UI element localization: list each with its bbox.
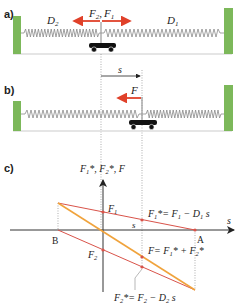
- line-f2-star: [58, 230, 195, 290]
- point-a-label: A: [197, 235, 204, 245]
- f2-star-leader: [135, 269, 142, 290]
- restoring-force-label: F: [130, 84, 138, 96]
- right-wall: [224, 8, 233, 54]
- f1-label: F1: [107, 203, 117, 215]
- eq-f1-star: F1*= F1 − D1 s: [147, 208, 210, 220]
- point-f2: [101, 248, 104, 251]
- point-f: [140, 255, 143, 258]
- s-tick-label: s: [132, 220, 136, 230]
- point-f1: [101, 210, 104, 213]
- spring-cart-diagram: a) F2, F1 D2 D1 s b): [0, 0, 240, 305]
- panel-b-label: b): [4, 84, 15, 96]
- displacement-label: s: [118, 64, 122, 75]
- panel-b: b) F: [4, 84, 233, 131]
- cart-a: [89, 43, 116, 52]
- point-f2-star: [140, 265, 143, 268]
- x-axis-label: s: [227, 215, 231, 226]
- spring-d1-label: D1: [166, 14, 178, 28]
- spring-d1: [101, 29, 224, 37]
- eq-f-sum: F= F1* + F2*: [147, 245, 204, 257]
- force-f2-label: F2,: [88, 7, 102, 21]
- right-wall: [224, 85, 233, 131]
- spring-d2: [21, 29, 101, 37]
- f2-label: F2: [87, 249, 98, 261]
- y-axis-label: F1*, F2*, F: [79, 163, 126, 175]
- spring-d1-compressed: [142, 110, 224, 118]
- panel-c-graph: c) F1*, F2*, F s F1 F2 s B A F1*= F1 − D…: [4, 162, 234, 304]
- panel-a-label: a): [4, 8, 14, 20]
- point-f1-star: [140, 218, 143, 221]
- spring-d2-stretched: [21, 110, 142, 118]
- point-a: [193, 228, 196, 231]
- eq-f2-star: F2*= F2 − D2 s: [113, 292, 176, 304]
- left-wall: [13, 16, 21, 54]
- panel-c-label: c): [4, 162, 14, 174]
- force-f1-label: F1: [103, 7, 114, 21]
- left-wall: [13, 101, 21, 131]
- cart-b: [129, 120, 157, 130]
- displacement-arrow: s: [101, 64, 140, 76]
- panel-a: a) F2, F1 D2 D1: [4, 7, 233, 54]
- spring-d2-label: D2: [46, 14, 59, 28]
- point-b-label: B: [52, 236, 58, 246]
